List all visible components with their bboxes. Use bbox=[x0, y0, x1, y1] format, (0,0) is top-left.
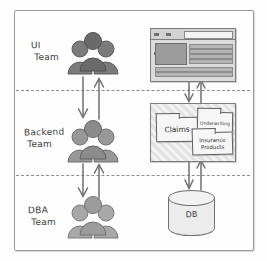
browser-window-dots-icon bbox=[154, 33, 180, 36]
lane-label-ui: UI Team bbox=[31, 39, 59, 64]
lane-label-dba: DBA Team bbox=[28, 204, 56, 229]
browser-url-bar[interactable] bbox=[184, 31, 233, 40]
people-group-icon-backend bbox=[66, 120, 120, 162]
browser-title-bar bbox=[151, 29, 235, 40]
service-card-tab bbox=[155, 113, 179, 119]
lane-separator-backend-dba bbox=[16, 175, 250, 176]
database-label: DB bbox=[168, 209, 215, 220]
arrow-ui-to-backend bbox=[74, 76, 108, 120]
lane-label-ui-line1: UI bbox=[31, 40, 41, 50]
arrow-backend-to-dba bbox=[74, 163, 108, 199]
browser-text-line bbox=[155, 67, 233, 72]
browser-text-line bbox=[155, 72, 233, 77]
browser-dot-1 bbox=[154, 33, 159, 36]
lane-label-backend-line1: Backend bbox=[24, 127, 65, 138]
lane-label-backend: Backend Team bbox=[24, 126, 65, 151]
architecture-diagram: UI Team Backend Team DBA Team bbox=[0, 0, 267, 261]
database-top-ellipse bbox=[168, 190, 215, 206]
service-card-insurance-products-label-line1: Insurance bbox=[199, 136, 226, 144]
arrow-services-to-database bbox=[182, 159, 208, 192]
lane-label-dba-line1: DBA bbox=[28, 205, 48, 215]
service-card-claims-label: Claims bbox=[164, 126, 189, 133]
browser-text-line bbox=[189, 44, 233, 49]
people-group-icon-ui bbox=[66, 32, 120, 74]
service-card-tab bbox=[191, 128, 215, 135]
service-card-tab bbox=[197, 108, 221, 114]
service-card-insurance-products[interactable]: Insurance Products bbox=[192, 131, 234, 155]
browser-window[interactable] bbox=[150, 28, 236, 82]
arrow-browser-to-services bbox=[182, 79, 208, 105]
browser-image-placeholder bbox=[155, 43, 187, 65]
lane-label-dba-line2: Team bbox=[31, 216, 56, 228]
browser-dot-2 bbox=[166, 33, 171, 36]
lane-label-ui-line2: Team bbox=[34, 51, 59, 63]
browser-text-line bbox=[189, 54, 233, 59]
services-box: Claims Underwriting Insurance Products bbox=[150, 103, 236, 162]
service-card-underwriting-label: Underwriting bbox=[200, 119, 230, 127]
service-card-insurance-products-label-line2: Products bbox=[199, 143, 226, 151]
lane-separator-ui-backend bbox=[16, 90, 250, 91]
browser-text-line bbox=[189, 49, 233, 54]
lane-label-backend-line2: Team bbox=[27, 138, 65, 150]
database-cylinder: DB bbox=[168, 190, 217, 242]
browser-text-line bbox=[189, 59, 233, 64]
people-group-icon-dba bbox=[66, 196, 120, 238]
